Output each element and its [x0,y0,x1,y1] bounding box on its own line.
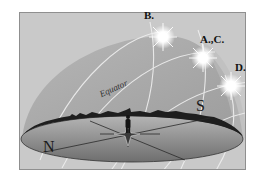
sun-label-ac: A.,C. [200,34,224,45]
sun-b-icon [149,23,177,51]
sun-ac-icon [189,44,217,72]
south-label: S [196,98,205,114]
sun-label-b: B. [144,10,154,21]
north-label: N [43,139,55,155]
sun-d-icon [217,72,245,100]
sun-label-d: D. [235,62,246,73]
celestial-sphere-diagram [0,0,267,179]
